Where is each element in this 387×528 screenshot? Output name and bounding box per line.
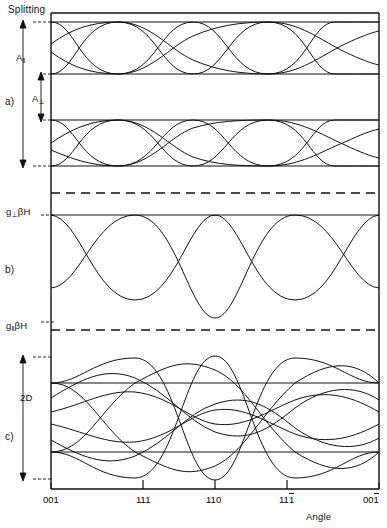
bracket-label-a-parallel: A‖ <box>16 52 26 64</box>
a-par-arrowhead-down <box>20 160 26 168</box>
curve-b1 <box>51 215 379 300</box>
curve-a5 <box>51 120 379 166</box>
curve-c8 <box>51 409 379 442</box>
epr-angular-dependence-figure: Splitting A‖ A⊥ g⊥βH g‖βH 2D a) b) c) 00… <box>0 0 387 528</box>
curve-a1 <box>51 22 379 74</box>
xtick-001bar-text: 00 <box>363 494 374 505</box>
xtick-111bar-text: 11 <box>279 494 289 505</box>
a-par-arrowhead-up <box>20 20 26 28</box>
twod-arrowhead-down <box>20 473 26 481</box>
xtick-110-tail: 0 <box>216 494 221 505</box>
bracket-label-two-d: 2D <box>20 392 33 403</box>
bracket-label-a-perpendicular: A⊥ <box>32 93 45 106</box>
axis-label-g-perp-beta-h: g⊥βH <box>6 206 31 219</box>
a-perp-arrowhead-up <box>38 72 44 80</box>
panel-b-group <box>51 215 379 318</box>
curve-a3 <box>51 22 379 74</box>
curve-c7 <box>51 392 379 425</box>
curve-b2 <box>51 215 379 318</box>
panel-letter-b: b) <box>5 264 14 275</box>
xtick-label-001: 001 <box>43 494 59 505</box>
panel-letter-c: c) <box>5 431 14 442</box>
x-axis-title: Angle <box>306 511 331 522</box>
panel-c-group <box>51 356 379 480</box>
panel-c-curves <box>51 356 379 480</box>
panel-letter-a: a) <box>5 96 14 107</box>
twod-arrowhead-up <box>20 355 26 363</box>
y-axis-title: Splitting <box>8 4 45 15</box>
curve-a7 <box>51 120 379 166</box>
panel-b-curves <box>51 215 379 318</box>
gperp-tail: βH <box>18 206 31 217</box>
curve-a6 <box>51 120 379 166</box>
panel-a-upper-curves <box>51 22 379 74</box>
annotation-arrows <box>20 20 55 481</box>
xtick-label-001bar: 001 <box>363 494 379 505</box>
a-parallel-sub: ‖ <box>23 57 26 64</box>
x-axis-ticks <box>51 480 379 489</box>
xtick-111-text: 11 <box>136 494 145 505</box>
xtick-001bar-overbar: 1 <box>374 494 379 505</box>
xtick-label-110: 110 <box>206 494 221 505</box>
xtick-111-tail: 1 <box>145 494 150 505</box>
xtick-001-text: 00 <box>43 494 54 505</box>
xtick-001-tail: 1 <box>54 494 59 505</box>
xtick-111bar-overbar: 1 <box>289 494 294 505</box>
xtick-110-text: 11 <box>206 494 216 505</box>
plot-canvas <box>0 0 387 528</box>
panel-a-lower-curves <box>51 120 379 166</box>
curve-a4 <box>51 22 379 74</box>
a-perp-arrowhead-down <box>38 114 44 122</box>
curve-c1 <box>51 358 379 480</box>
axis-label-g-par-beta-h: g‖βH <box>6 320 27 332</box>
curve-a2 <box>51 22 379 74</box>
gpar-tail: βH <box>15 320 28 331</box>
xtick-label-111: 111 <box>136 494 150 505</box>
xtick-label-111bar: 111 <box>279 494 294 505</box>
panel-a-group <box>51 22 379 166</box>
curve-a8 <box>51 120 379 166</box>
a-perp-sub: ⊥ <box>39 98 45 105</box>
curve-c4 <box>51 364 379 469</box>
